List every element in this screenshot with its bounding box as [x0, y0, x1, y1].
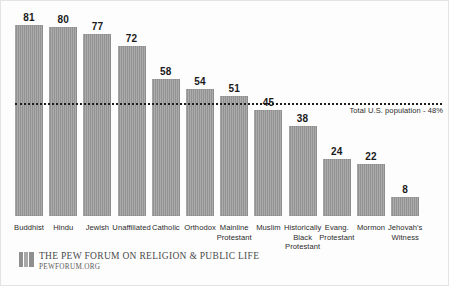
reference-line-label: Total U.S. population - 48%: [349, 106, 443, 115]
bar: [357, 164, 385, 216]
bar-group: 24: [323, 1, 351, 219]
chart-figure: 81807772585451453824228 Total U.S. popul…: [0, 0, 449, 286]
pew-forum-logo-icon: [19, 252, 34, 267]
footer-text-block: THE PEW FORUM ON RELIGION & PUBLIC LIFE …: [39, 251, 259, 272]
bar: [186, 89, 214, 216]
bar-group: 72: [118, 1, 146, 219]
bar-value-label: 22: [349, 151, 393, 162]
bar-value-label: 72: [110, 33, 154, 44]
bar-value-label: 51: [212, 83, 256, 94]
bar-group: 38: [289, 1, 317, 219]
bar-group: 80: [49, 1, 77, 219]
category-label-line: Jehovah's: [378, 223, 432, 233]
reference-line: [15, 103, 442, 105]
bar: [220, 96, 248, 216]
bar-group: 81: [15, 1, 43, 219]
bar-group: 77: [83, 1, 111, 219]
footer-website-url: PEWFORUM.ORG: [39, 262, 259, 272]
bar: [49, 27, 77, 216]
bar: [254, 110, 282, 216]
bar-group: 58: [152, 1, 180, 219]
bar: [83, 34, 111, 216]
bar: [289, 126, 317, 216]
chart-footer: THE PEW FORUM ON RELIGION & PUBLIC LIFE …: [19, 251, 259, 272]
bar: [15, 25, 43, 216]
bar: [118, 46, 146, 216]
bar-value-label: 8: [383, 184, 427, 195]
bar-group: 51: [220, 1, 248, 219]
bar-value-label: 77: [75, 21, 119, 32]
category-label-line: Protestant: [310, 233, 364, 243]
category-label-line: Protestant: [207, 233, 261, 243]
category-label-line: Protestant: [276, 242, 330, 252]
category-label: Jehovah'sWitness: [378, 223, 432, 242]
bar-group: 45: [254, 1, 282, 219]
bar: [152, 79, 180, 216]
bar: [391, 197, 419, 216]
category-label-line: Witness: [378, 233, 432, 243]
bar: [323, 159, 351, 216]
footer-organization-title: THE PEW FORUM ON RELIGION & PUBLIC LIFE: [39, 251, 259, 262]
bar-group: 54: [186, 1, 214, 219]
bar-value-label: 38: [281, 113, 325, 124]
